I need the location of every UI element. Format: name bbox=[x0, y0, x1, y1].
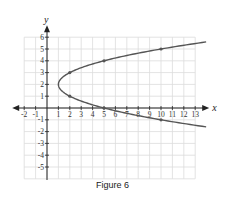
svg-text:12: 12 bbox=[180, 110, 188, 119]
svg-text:x: x bbox=[211, 102, 217, 113]
svg-text:-2: -2 bbox=[21, 110, 27, 119]
svg-text:5: 5 bbox=[102, 110, 106, 119]
svg-text:5: 5 bbox=[40, 45, 44, 54]
svg-text:7: 7 bbox=[125, 110, 129, 119]
figure-caption: Figure 6 bbox=[0, 180, 225, 190]
svg-text:1: 1 bbox=[40, 92, 44, 101]
svg-text:13: 13 bbox=[191, 110, 199, 119]
svg-text:10: 10 bbox=[157, 110, 165, 119]
svg-text:4: 4 bbox=[91, 110, 95, 119]
svg-text:4: 4 bbox=[40, 56, 44, 65]
svg-text:8: 8 bbox=[136, 110, 140, 119]
svg-text:-5: -5 bbox=[38, 163, 44, 172]
svg-text:-2: -2 bbox=[38, 127, 44, 136]
svg-text:2: 2 bbox=[40, 80, 44, 89]
svg-text:3: 3 bbox=[40, 68, 44, 77]
svg-text:-4: -4 bbox=[38, 151, 44, 160]
parabola-chart: xy -2-112345678910111213-5-4-3-2-1123456 bbox=[0, 0, 225, 180]
svg-text:11: 11 bbox=[169, 110, 176, 119]
svg-text:-3: -3 bbox=[38, 139, 44, 148]
svg-text:2: 2 bbox=[68, 110, 72, 119]
svg-text:y: y bbox=[43, 14, 49, 25]
svg-text:3: 3 bbox=[79, 110, 83, 119]
svg-text:6: 6 bbox=[40, 33, 44, 42]
svg-text:-1: -1 bbox=[38, 115, 44, 124]
svg-text:1: 1 bbox=[57, 110, 61, 119]
